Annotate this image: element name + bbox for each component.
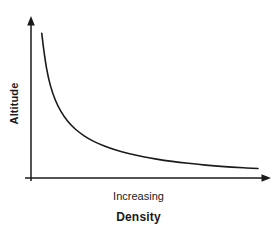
chart-plot-area [0,0,277,242]
x-axis [25,174,271,182]
y-axis-label: Altitude [5,68,25,138]
arrow-up-icon [27,16,35,26]
x-axis-direction-label: Increasing [0,191,277,202]
x-axis-label: Density [0,211,277,223]
chart-figure: Altitude Increasing Density [0,0,277,242]
arrow-right-icon [262,174,272,182]
y-axis-label-text: Altitude [10,82,21,124]
data-series-curve [42,33,258,168]
y-axis [27,16,35,181]
